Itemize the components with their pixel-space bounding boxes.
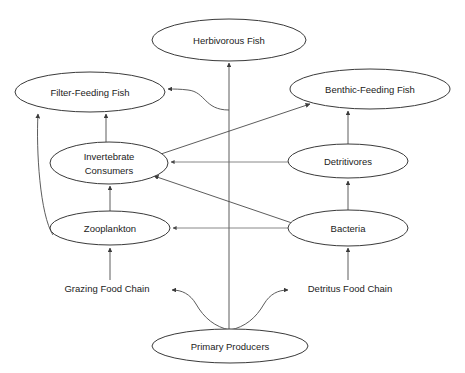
node-herbivorous-fish[interactable]: Herbivorous Fish	[152, 19, 306, 61]
detritivores-label: Detritivores	[324, 156, 372, 167]
edge-invertebrate-consumers-to-benthic-feeding-fish	[152, 104, 310, 157]
filter-feeding-fish-label: Filter-Feeding Fish	[50, 87, 129, 98]
zooplankton-label: Zooplankton	[84, 223, 136, 234]
node-invertebrate-consumers[interactable]: Invertebrate Consumers	[50, 142, 168, 184]
detritus-food-chain-label: Detritus Food Chain	[308, 283, 392, 294]
primary-producers-label: Primary Producers	[191, 341, 270, 352]
node-benthic-feeding-fish[interactable]: Benthic-Feeding Fish	[290, 69, 450, 109]
food-web-diagram: Herbivorous Fish Filter-Feeding Fish Ben…	[0, 0, 465, 373]
edge-primary-producers-to-detritus-chain	[230, 290, 288, 330]
edge-detritus-chain-to-filter-feeding-fish	[168, 89, 229, 110]
grazing-food-chain-label: Grazing Food Chain	[64, 283, 149, 294]
benthic-feeding-fish-label: Benthic-Feeding Fish	[325, 84, 415, 95]
node-zooplankton[interactable]: Zooplankton	[50, 211, 170, 245]
node-primary-producers[interactable]: Primary Producers	[152, 329, 308, 363]
herbivorous-fish-label: Herbivorous Fish	[193, 35, 265, 46]
edge-primary-producers-to-grazing-chain	[172, 290, 230, 330]
node-detritivores[interactable]: Detritivores	[288, 144, 408, 178]
invertebrate-consumers-ellipse[interactable]	[50, 142, 168, 184]
edge-zooplankton-to-filter-feeding-fish	[38, 114, 53, 235]
bacteria-label: Bacteria	[331, 223, 367, 234]
invertebrate-consumers-label-line2: Consumers	[85, 165, 134, 176]
food-web-canvas: Herbivorous Fish Filter-Feeding Fish Ben…	[0, 0, 465, 373]
invertebrate-consumers-label-line1: Invertebrate	[84, 151, 135, 162]
node-bacteria[interactable]: Bacteria	[288, 210, 408, 246]
node-filter-feeding-fish[interactable]: Filter-Feeding Fish	[15, 72, 165, 112]
edge-bacteria-to-invertebrate-consumers	[154, 176, 292, 223]
